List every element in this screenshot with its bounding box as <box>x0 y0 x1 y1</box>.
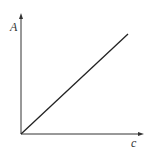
y-axis-arrow-icon <box>19 13 23 19</box>
chart: A c <box>0 0 156 160</box>
x-axis-label: c <box>131 137 136 149</box>
y-axis-label: A <box>10 21 17 33</box>
x-axis-arrow-icon <box>138 132 144 136</box>
data-line <box>21 34 128 134</box>
